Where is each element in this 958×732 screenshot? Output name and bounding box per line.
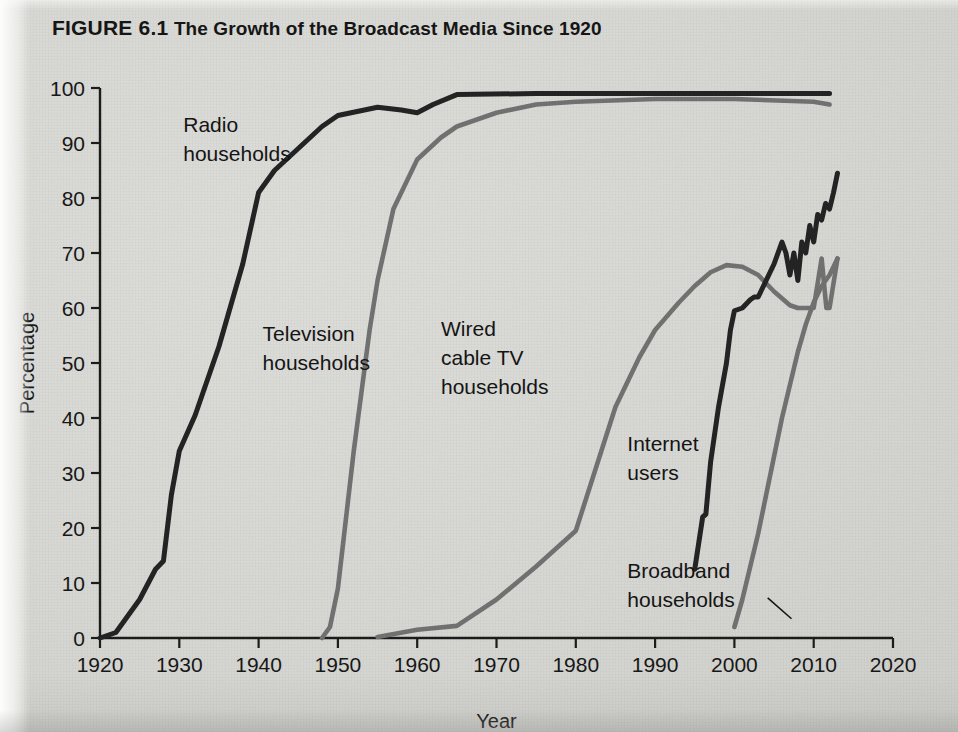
- figure-container: FIGURE 6.1 The Growth of the Broadcast M…: [0, 0, 958, 732]
- chart-plot-area: 0102030405060708090100192019301940195019…: [0, 0, 958, 732]
- series-label-group: RadiohouseholdsTelevisionhouseholdsWired…: [183, 113, 735, 611]
- series-label-broadband-households: households: [627, 588, 734, 611]
- series-label-wired-cable-tv-households: households: [441, 375, 548, 398]
- series-line-broadband-households: [734, 259, 837, 628]
- series-label-television-households: households: [263, 351, 370, 374]
- y-axis-tick-label: 40: [62, 407, 85, 430]
- y-axis-tick-label: 80: [62, 187, 85, 210]
- y-axis-tick-label: 20: [62, 517, 85, 540]
- y-axis-tick-label: 50: [62, 352, 85, 375]
- series-line-internet-users: [695, 173, 838, 569]
- y-axis-tick-label: 70: [62, 242, 85, 265]
- x-axis-tick-label: 1920: [77, 653, 124, 676]
- annotation-group: [768, 598, 792, 619]
- x-axis-tick-label: 2020: [870, 653, 917, 676]
- y-axis-tick-label: 60: [62, 297, 85, 320]
- series-label-internet-users: users: [627, 461, 678, 484]
- series-label-internet-users: Internet: [627, 432, 698, 455]
- y-axis-tick-label: 10: [62, 572, 85, 595]
- x-axis-tick-label: 1970: [473, 653, 520, 676]
- series-label-radio-households: Radio: [183, 113, 238, 136]
- series-line-wired-cable-tv-households: [378, 259, 838, 637]
- y-axis-tick-label: 90: [62, 132, 85, 155]
- x-axis-tick-label: 1940: [235, 653, 282, 676]
- series-label-broadband-households: Broadband: [627, 559, 730, 582]
- x-axis-tick-label: 1980: [552, 653, 599, 676]
- y-axis-tick-label: 30: [62, 462, 85, 485]
- x-axis-tick-label: 1960: [394, 653, 441, 676]
- series-label-wired-cable-tv-households: cable TV: [441, 346, 524, 369]
- x-axis-tick-label: 1930: [156, 653, 203, 676]
- x-axis-tick-label: 1990: [632, 653, 679, 676]
- y-axis-tick-label: 100: [50, 77, 85, 100]
- series-label-television-households: Television: [263, 322, 355, 345]
- x-axis-tick-label: 2000: [711, 653, 758, 676]
- x-axis-tick-label: 2010: [790, 653, 837, 676]
- x-axis-title: Year: [476, 710, 517, 732]
- y-axis-tick-label: 0: [73, 627, 85, 650]
- broadband-leader-line: [768, 598, 792, 619]
- series-label-radio-households: households: [183, 142, 290, 165]
- y-axis-title: Percentage: [16, 312, 38, 414]
- series-label-wired-cable-tv-households: Wired: [441, 317, 496, 340]
- x-axis-tick-label: 1950: [315, 653, 362, 676]
